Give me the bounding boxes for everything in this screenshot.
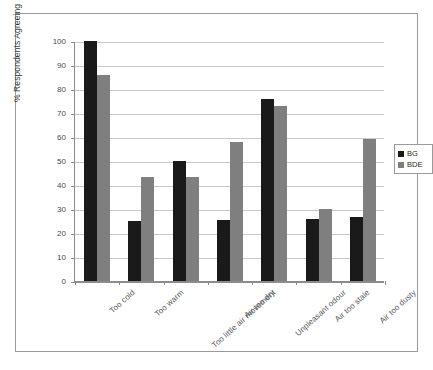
x-tick-mark bbox=[164, 281, 165, 285]
y-tick-label: 10 bbox=[40, 254, 66, 262]
legend-label-bg: BG bbox=[407, 150, 418, 158]
y-tick-mark bbox=[71, 234, 75, 235]
y-tick-mark bbox=[71, 258, 75, 259]
y-tick-mark bbox=[71, 90, 75, 91]
x-tick-mark bbox=[208, 281, 209, 285]
y-tick-mark bbox=[71, 210, 75, 211]
chart-legend: BG BDE bbox=[394, 144, 433, 174]
legend-label-bde: BDE bbox=[407, 161, 422, 169]
y-tick-mark bbox=[71, 186, 75, 187]
y-tick-label: 0 bbox=[40, 278, 66, 286]
bar-bg bbox=[261, 99, 274, 281]
bar-bg bbox=[217, 220, 230, 281]
y-tick-label: 90 bbox=[40, 62, 66, 70]
x-axis-label: Air too dry bbox=[243, 288, 277, 320]
gridline bbox=[75, 90, 384, 91]
x-tick-mark bbox=[119, 281, 120, 285]
bar-bde bbox=[97, 75, 110, 281]
gridline bbox=[75, 114, 384, 115]
bar-bde bbox=[319, 209, 332, 281]
bar-bg bbox=[173, 161, 186, 281]
y-tick-label: 30 bbox=[40, 206, 66, 214]
y-tick-label: 100 bbox=[40, 38, 66, 46]
y-axis-title: % Respondents Agreeing bbox=[12, 0, 22, 102]
y-tick-mark bbox=[71, 114, 75, 115]
bar-bde bbox=[274, 106, 287, 281]
bar-bg bbox=[84, 41, 97, 281]
bar-bde bbox=[186, 177, 199, 281]
x-axis-label: Too warm bbox=[154, 288, 186, 318]
y-tick-label: 80 bbox=[40, 86, 66, 94]
legend-item-bg: BG bbox=[398, 148, 429, 159]
y-tick-mark bbox=[71, 66, 75, 67]
y-tick-mark bbox=[71, 162, 75, 163]
x-tick-mark bbox=[252, 281, 253, 285]
y-tick-label: 20 bbox=[40, 230, 66, 238]
y-tick-label: 70 bbox=[40, 110, 66, 118]
y-tick-label: 40 bbox=[40, 182, 66, 190]
figure-frame: % Respondents Agreeing 01020304050607080… bbox=[15, 13, 418, 352]
x-tick-mark bbox=[75, 281, 76, 285]
gridline bbox=[75, 282, 384, 283]
y-tick-label: 60 bbox=[40, 134, 66, 142]
gridline bbox=[75, 42, 384, 43]
bar-bg bbox=[306, 219, 319, 281]
plot-area: 0102030405060708090100 bbox=[74, 42, 384, 282]
bar-bg bbox=[350, 217, 363, 281]
gridline bbox=[75, 66, 384, 67]
x-tick-mark bbox=[296, 281, 297, 285]
legend-item-bde: BDE bbox=[398, 159, 429, 170]
y-tick-mark bbox=[71, 138, 75, 139]
bar-bde bbox=[230, 142, 243, 281]
y-tick-mark bbox=[71, 42, 75, 43]
gridline bbox=[75, 138, 384, 139]
bar-bde bbox=[141, 177, 154, 281]
x-axis-label: Too cold bbox=[108, 288, 137, 315]
x-tick-mark bbox=[385, 281, 386, 285]
bar-bg bbox=[128, 221, 141, 281]
x-tick-mark bbox=[341, 281, 342, 285]
chart-figure: % Respondents Agreeing 01020304050607080… bbox=[0, 0, 433, 370]
legend-swatch-bg-icon bbox=[398, 151, 404, 157]
x-axis-label: Air too dusty bbox=[378, 288, 418, 325]
legend-swatch-bde-icon bbox=[398, 162, 404, 168]
bar-bde bbox=[363, 139, 376, 281]
y-tick-label: 50 bbox=[40, 158, 66, 166]
